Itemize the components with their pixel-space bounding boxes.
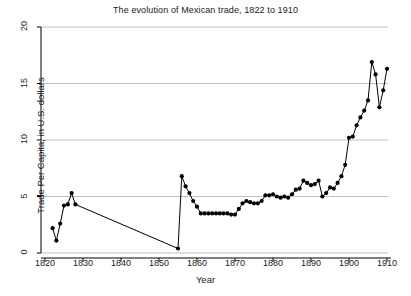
x-tick-label: 1890 <box>291 258 331 268</box>
x-tick-label: 1860 <box>177 258 217 268</box>
axes <box>41 27 391 258</box>
x-axis-label: Year <box>0 274 411 285</box>
plot-area <box>0 0 411 296</box>
y-tick-label: 5 <box>19 185 29 207</box>
data-points <box>51 60 390 251</box>
data-line <box>53 62 387 248</box>
x-tick-label: 1840 <box>101 258 141 268</box>
x-tick-label: 1820 <box>25 258 65 268</box>
y-tick-label: 10 <box>19 128 29 150</box>
y-tick-label: 15 <box>19 72 29 94</box>
y-axis-label: Trade Per Capita, in U.S. dollars <box>35 46 46 246</box>
y-tick-label: 20 <box>19 15 29 37</box>
x-tick-label: 1900 <box>329 258 369 268</box>
x-tick-label: 1910 <box>367 258 407 268</box>
chart-container: The evolution of Mexican trade, 1822 to … <box>0 0 411 296</box>
tick-marks <box>37 27 387 262</box>
x-tick-label: 1870 <box>215 258 255 268</box>
x-tick-label: 1830 <box>63 258 103 268</box>
x-tick-label: 1850 <box>139 258 179 268</box>
x-tick-label: 1880 <box>253 258 293 268</box>
gridlines <box>41 27 388 253</box>
